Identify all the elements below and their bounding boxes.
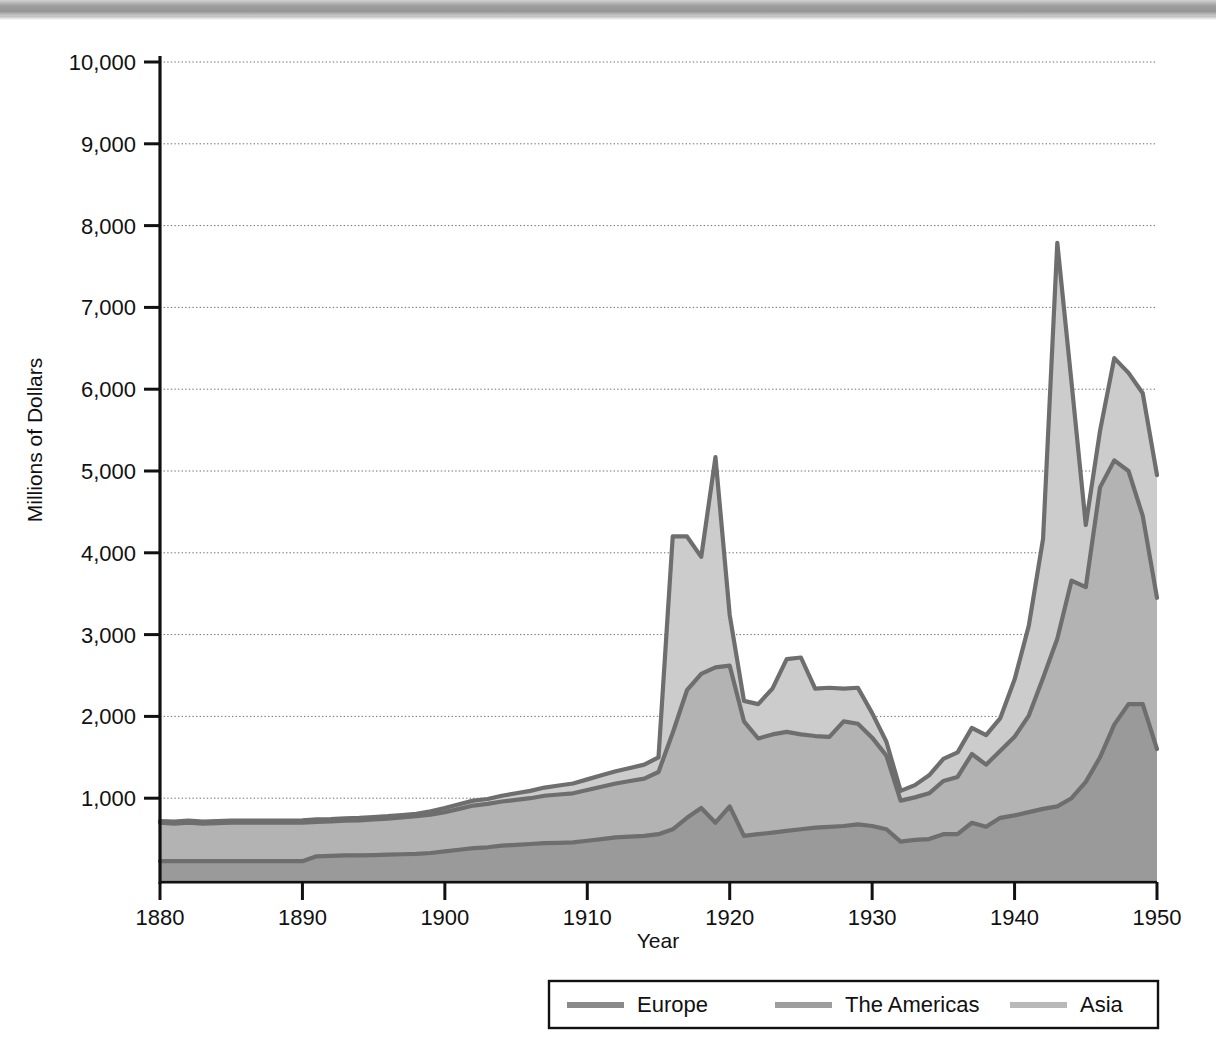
legend-label-europe[interactable]: Europe: [637, 992, 708, 1017]
legend-label-asia[interactable]: Asia: [1080, 992, 1124, 1017]
y-tick-label: 4,000: [81, 541, 136, 566]
y-tick-label: 10,000: [69, 50, 136, 75]
y-tick-marks: [144, 62, 160, 798]
x-tick-label: 1940: [990, 905, 1039, 930]
x-tick-label: 1950: [1133, 905, 1182, 930]
y-tick-label: 1,000: [81, 786, 136, 811]
y-tick-label: 3,000: [81, 623, 136, 648]
x-tick-label: 1890: [278, 905, 327, 930]
x-tick-label: 1930: [848, 905, 897, 930]
y-tick-label: 2,000: [81, 704, 136, 729]
x-tick-label: 1910: [563, 905, 612, 930]
y-tick-labels: 1,0002,0003,0004,0005,0006,0007,0008,000…: [69, 50, 136, 811]
chart-legend: EuropeThe AmericasAsia: [549, 981, 1158, 1028]
gridlines: [160, 62, 1157, 798]
y-tick-label: 9,000: [81, 132, 136, 157]
y-tick-label: 7,000: [81, 295, 136, 320]
x-tick-label: 1920: [705, 905, 754, 930]
x-tick-labels: 18801890190019101920193019401950: [136, 905, 1182, 930]
x-tick-label: 1880: [136, 905, 185, 930]
x-axis: 18801890190019101920193019401950 Year: [136, 882, 1182, 952]
x-tick-label: 1900: [420, 905, 469, 930]
y-tick-label: 5,000: [81, 459, 136, 484]
y-axis-title: Millions of Dollars: [23, 358, 46, 523]
area-the-americas: [160, 460, 1157, 861]
x-tick-marks: [160, 882, 1157, 900]
chart-svg: 1,0002,0003,0004,0005,0006,0007,0008,000…: [0, 0, 1216, 1040]
y-axis: 1,0002,0003,0004,0005,0006,0007,0008,000…: [23, 50, 160, 884]
y-tick-label: 6,000: [81, 377, 136, 402]
x-axis-title: Year: [637, 929, 679, 952]
stacked-areas: [160, 243, 1157, 880]
legend-label-the-americas[interactable]: The Americas: [845, 992, 980, 1017]
y-tick-label: 8,000: [81, 214, 136, 239]
chart-figure: 1,0002,0003,0004,0005,0006,0007,0008,000…: [0, 0, 1216, 1040]
